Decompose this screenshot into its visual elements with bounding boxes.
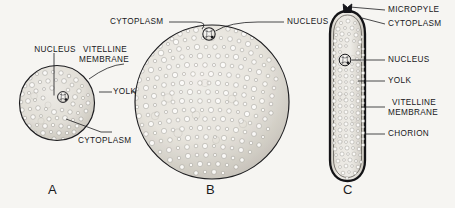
panel-letter-a: A [48, 182, 57, 197]
egg-types-figure: NUCLEUS VITELLINE MEMBRANE YOLK CYTOPLAS… [0, 0, 455, 208]
panel-a-egg [19, 66, 94, 142]
label-a-yolk: YOLK [113, 87, 136, 97]
label-c-nucleus: NUCLEUS [388, 55, 430, 65]
panel-letter-c: C [343, 182, 353, 197]
leader-a-vitelline [89, 64, 124, 79]
label-c-micropyle: MICROPYLE [388, 5, 439, 15]
label-a-nucleus: NUCLEUS [26, 45, 84, 55]
panel-a-nucleus [58, 92, 69, 103]
label-b-nucleus: NUCLEUS [287, 17, 329, 27]
label-c-chorion: CHORION [388, 129, 429, 139]
label-a-cytoplasm: CYTOPLASM [78, 136, 132, 146]
panel-c-nucleus [339, 54, 351, 66]
label-c-yolk: YOLK [388, 76, 411, 86]
label-c-vitelline-line1: VITELLINE [392, 98, 436, 108]
label-c-cytoplasm: CYTOPLASM [388, 19, 442, 29]
label-c-vitelline-line2: MEMBRANE [388, 108, 438, 118]
panel-letter-b: B [206, 182, 215, 197]
label-a-vitelline-line1: VITELLINE [83, 45, 127, 55]
leader-c-cytoplasm [362, 18, 385, 24]
panel-c-micropyle [343, 4, 352, 13]
leader-c-micropyle [350, 7, 385, 10]
label-b-cytoplasm: CYTOPLASM [110, 17, 164, 27]
figure-illustration [0, 0, 455, 208]
label-a-vitelline-line2: MEMBRANE [79, 55, 129, 65]
panel-b-nucleus [203, 28, 215, 40]
panel-b-egg [134, 25, 289, 179]
panel-c-egg [330, 4, 365, 181]
